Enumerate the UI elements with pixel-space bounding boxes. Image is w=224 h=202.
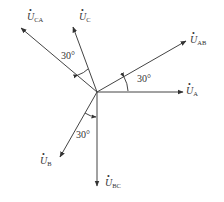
label-ua: •UA [186, 86, 198, 98]
phasor-ub [60, 92, 97, 157]
phasor-canvas [0, 0, 224, 202]
angle-arc-a-ab [124, 77, 128, 91]
phasor-uab [97, 41, 186, 92]
label-uc: •UC [79, 12, 91, 24]
angle-label-b-bc: 30° [76, 130, 90, 140]
label-ubc: •UBC [105, 178, 121, 190]
angle-label-a-ab: 30° [137, 74, 151, 84]
label-uca: •UCA [27, 12, 43, 24]
label-uab: •UAB [190, 35, 206, 47]
angle-label-ca-c: 30° [61, 51, 75, 61]
label-ub: •UB [40, 156, 52, 168]
angle-arc-b-bc [85, 113, 96, 117]
angle-arc-ca-c [78, 69, 88, 75]
